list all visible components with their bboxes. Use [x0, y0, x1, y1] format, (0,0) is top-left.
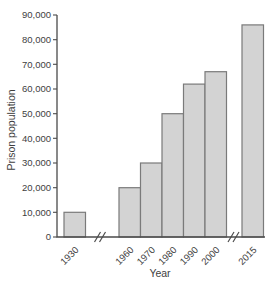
x-axis-title: Year [149, 267, 170, 279]
y-tick-label: 80,000 [22, 34, 51, 45]
y-tick-label: 30,000 [22, 157, 51, 168]
x-tick-label-1960: 1960 [113, 244, 136, 267]
bar-2000 [205, 72, 227, 237]
chart-canvas: 010,00020,00030,00040,00050,00060,00070,… [0, 0, 266, 290]
bar-1930 [64, 212, 86, 237]
y-tick-label: 50,000 [22, 108, 51, 119]
y-tick-label: 40,000 [22, 133, 51, 144]
x-tick-label-1980: 1980 [156, 244, 179, 267]
bar-1980 [162, 114, 184, 237]
prison-population-bar-chart: 010,00020,00030,00040,00050,00060,00070,… [0, 0, 266, 290]
x-tick-label-2000: 2000 [199, 244, 222, 267]
y-tick-label: 70,000 [22, 59, 51, 70]
x-tick-label-1970: 1970 [134, 244, 157, 267]
bar-1960 [119, 188, 141, 237]
x-tick-label-1990: 1990 [177, 244, 200, 267]
y-tick-label: 0 [46, 231, 51, 242]
y-axis-title: Prison population [5, 89, 17, 170]
bar-1970 [141, 163, 163, 237]
bar-2015 [242, 25, 264, 237]
y-tick-label: 90,000 [22, 9, 51, 20]
x-tick-label-2015: 2015 [236, 244, 259, 267]
bar-1990 [184, 84, 206, 237]
y-tick-label: 60,000 [22, 83, 51, 94]
x-tick-label-1930: 1930 [58, 244, 81, 267]
y-tick-label: 10,000 [22, 207, 51, 218]
y-tick-label: 20,000 [22, 182, 51, 193]
